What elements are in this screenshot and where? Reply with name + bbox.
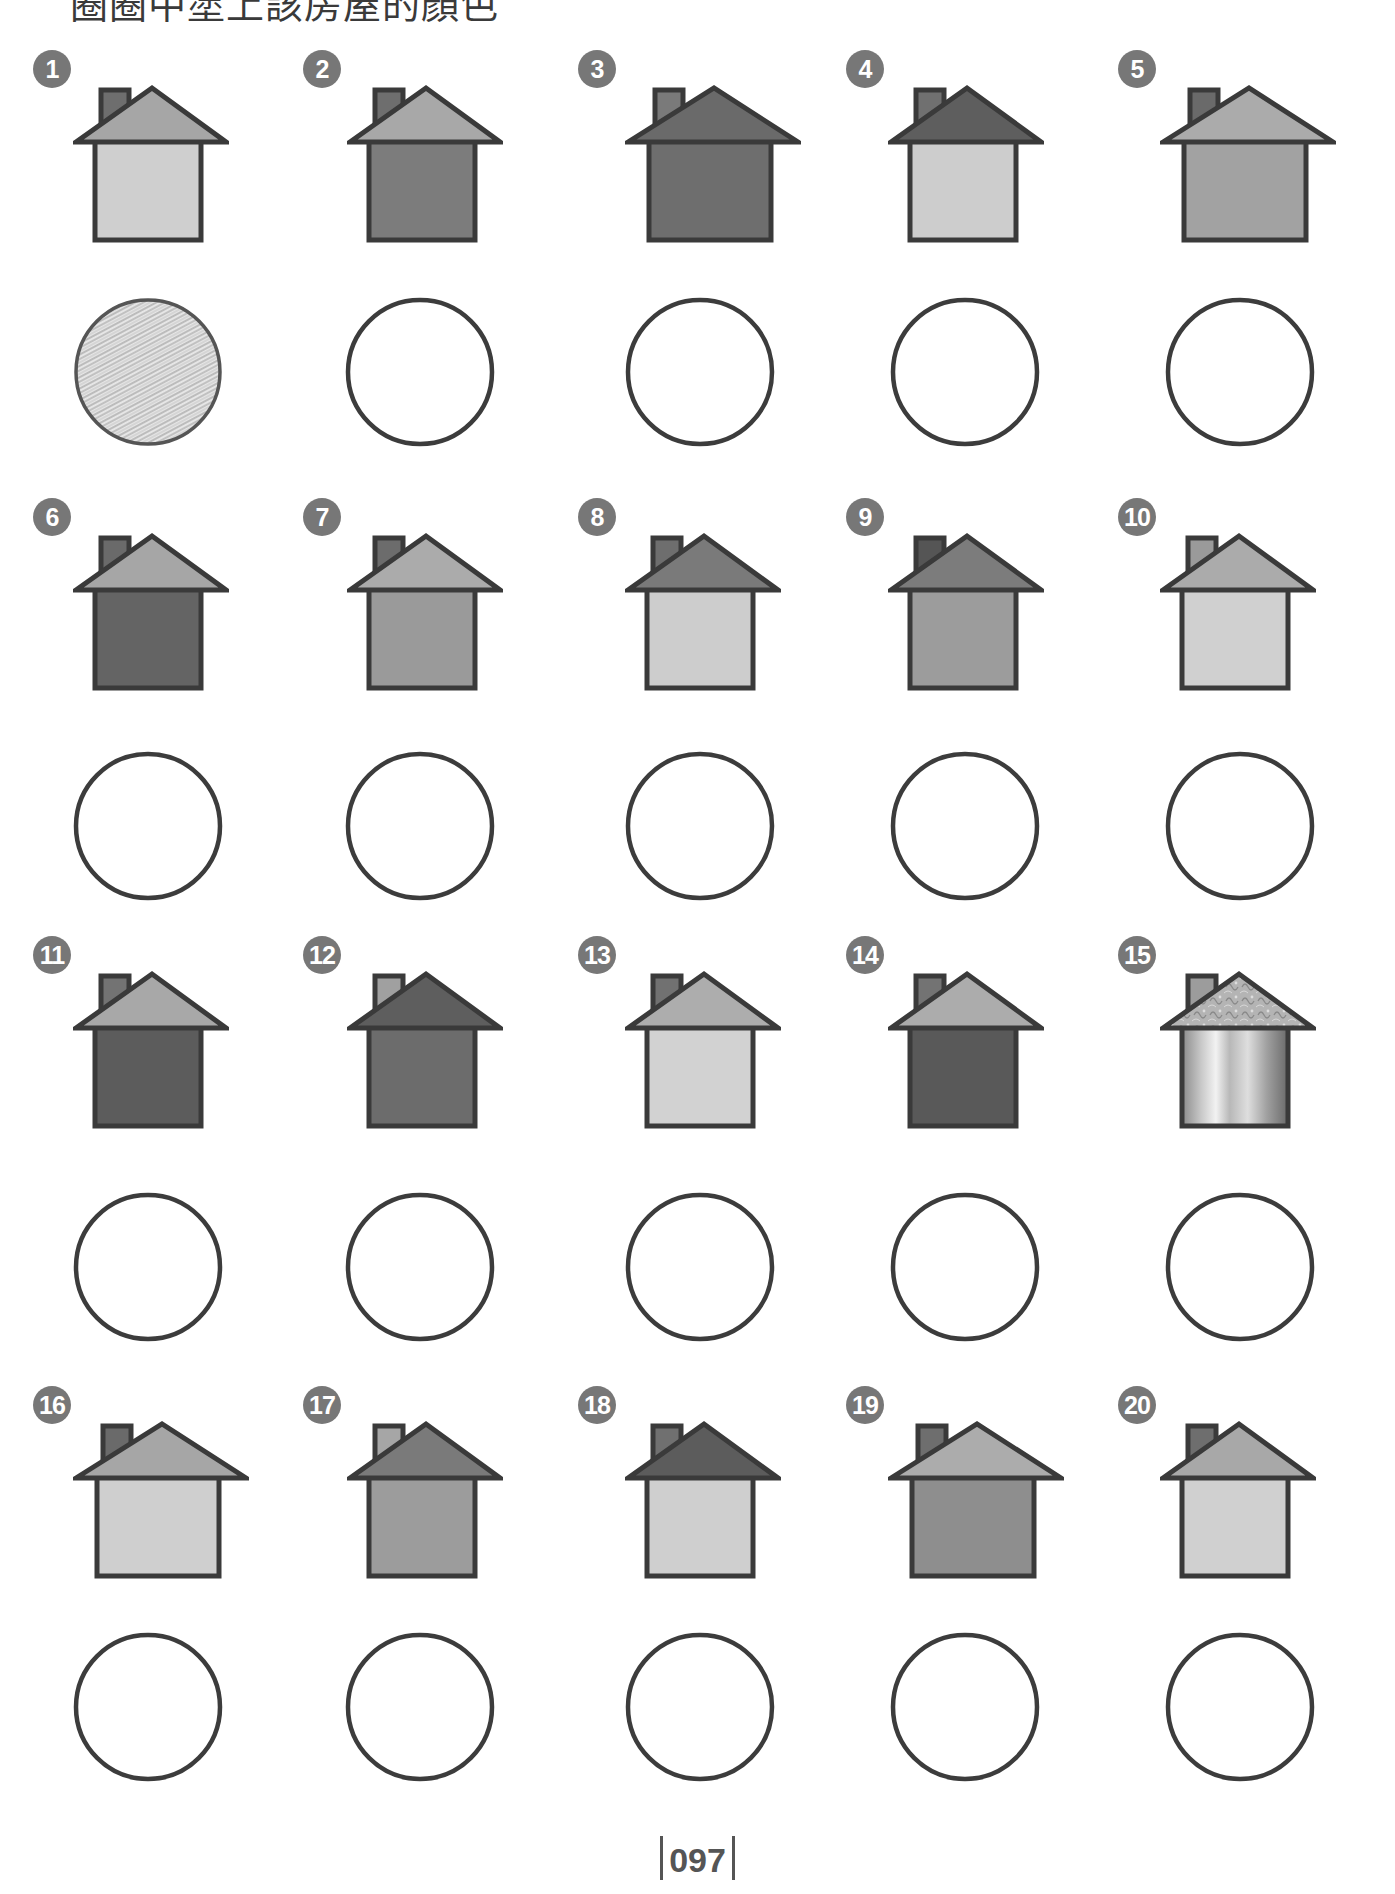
house-body bbox=[647, 1026, 753, 1126]
house-number-badge: 10 bbox=[1118, 498, 1156, 536]
house-body bbox=[1182, 1026, 1288, 1126]
answer-circle[interactable] bbox=[342, 1189, 498, 1345]
house-icon bbox=[73, 966, 229, 1136]
house-body bbox=[647, 588, 753, 688]
answer-circle[interactable] bbox=[70, 1629, 226, 1785]
house-icon bbox=[888, 966, 1044, 1136]
house-number-badge: 12 bbox=[303, 936, 341, 974]
house-number-badge: 11 bbox=[33, 936, 71, 974]
answer-circle[interactable] bbox=[887, 1629, 1043, 1785]
house-number-badge: 9 bbox=[846, 498, 884, 536]
house-number-badge: 18 bbox=[578, 1386, 616, 1424]
page-number-divider-right bbox=[732, 1836, 735, 1880]
page-number-text: 097 bbox=[669, 1841, 726, 1879]
house-icon bbox=[73, 528, 229, 698]
house-body bbox=[97, 1476, 219, 1576]
house-icon bbox=[625, 80, 801, 250]
worksheet-instruction: 圈圈中塗上該房屋的顏色 bbox=[70, 0, 499, 29]
answer-circle[interactable] bbox=[342, 1629, 498, 1785]
house-body bbox=[369, 1476, 475, 1576]
house-icon bbox=[1160, 1416, 1316, 1586]
house-icon bbox=[888, 1416, 1064, 1586]
house-number-badge: 5 bbox=[1118, 50, 1156, 88]
answer-circle[interactable] bbox=[1162, 1189, 1318, 1345]
house-number-badge: 1 bbox=[33, 50, 71, 88]
answer-circle[interactable] bbox=[1162, 294, 1318, 450]
house-body bbox=[1182, 1476, 1288, 1576]
house-body bbox=[95, 1026, 201, 1126]
house-icon bbox=[625, 1416, 781, 1586]
house-body bbox=[1184, 140, 1306, 240]
house-number-badge: 16 bbox=[33, 1386, 71, 1424]
answer-circle[interactable] bbox=[622, 1629, 778, 1785]
house-body bbox=[910, 140, 1016, 240]
house-body bbox=[369, 140, 475, 240]
house-icon bbox=[1160, 528, 1316, 698]
house-body bbox=[369, 588, 475, 688]
answer-circle[interactable] bbox=[622, 294, 778, 450]
house-icon bbox=[347, 966, 503, 1136]
answer-circle[interactable] bbox=[887, 748, 1043, 904]
answer-circle[interactable] bbox=[70, 748, 226, 904]
house-body bbox=[910, 588, 1016, 688]
house-body bbox=[912, 1476, 1034, 1576]
house-number-badge: 15 bbox=[1118, 936, 1156, 974]
answer-circle[interactable] bbox=[342, 294, 498, 450]
house-number-badge: 8 bbox=[578, 498, 616, 536]
answer-circle[interactable] bbox=[70, 1189, 226, 1345]
house-number-badge: 13 bbox=[578, 936, 616, 974]
house-body bbox=[369, 1026, 475, 1126]
house-body bbox=[910, 1026, 1016, 1126]
house-number-badge: 19 bbox=[846, 1386, 884, 1424]
house-number-badge: 20 bbox=[1118, 1386, 1156, 1424]
house-body bbox=[95, 588, 201, 688]
house-body bbox=[95, 140, 201, 240]
house-number-badge: 14 bbox=[846, 936, 884, 974]
house-icon bbox=[625, 528, 781, 698]
answer-circle[interactable] bbox=[1162, 748, 1318, 904]
answer-circle[interactable] bbox=[887, 1189, 1043, 1345]
answer-circle[interactable] bbox=[887, 294, 1043, 450]
house-number-badge: 4 bbox=[846, 50, 884, 88]
house-icon bbox=[73, 1416, 249, 1586]
house-icon bbox=[73, 80, 229, 250]
house-number-badge: 2 bbox=[303, 50, 341, 88]
page-number: 097 bbox=[0, 1838, 1395, 1882]
house-body bbox=[647, 1476, 753, 1576]
answer-circle[interactable] bbox=[1162, 1629, 1318, 1785]
answer-circle[interactable] bbox=[342, 748, 498, 904]
house-icon bbox=[888, 528, 1044, 698]
answer-circle[interactable] bbox=[622, 1189, 778, 1345]
house-icon bbox=[1160, 80, 1336, 250]
house-number-badge: 7 bbox=[303, 498, 341, 536]
house-icon bbox=[347, 528, 503, 698]
house-body bbox=[1182, 588, 1288, 688]
house-number-badge: 17 bbox=[303, 1386, 341, 1424]
house-icon bbox=[625, 966, 781, 1136]
answer-circle[interactable] bbox=[622, 748, 778, 904]
house-icon bbox=[1160, 966, 1316, 1136]
answer-circle-colored[interactable] bbox=[70, 294, 226, 450]
house-icon bbox=[888, 80, 1044, 250]
house-icon bbox=[347, 80, 503, 250]
house-icon bbox=[347, 1416, 503, 1586]
house-body bbox=[649, 140, 771, 240]
house-number-badge: 6 bbox=[33, 498, 71, 536]
house-number-badge: 3 bbox=[578, 50, 616, 88]
page-number-divider-left bbox=[660, 1836, 663, 1880]
